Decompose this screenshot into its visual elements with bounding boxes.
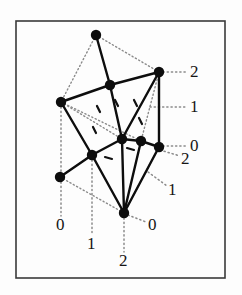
node-left-upper (56, 97, 66, 107)
figure-container: 210210012 (0, 0, 242, 295)
label-right-0: 0 (190, 137, 199, 154)
label-bottom-0: 0 (56, 216, 65, 233)
node-top (91, 30, 101, 40)
node-bottom (119, 208, 129, 218)
label-diag-2: 2 (181, 150, 190, 167)
label-right-1: 1 (190, 98, 199, 115)
label-bottom-2: 2 (119, 252, 128, 269)
node-left-lower (55, 172, 65, 182)
label-diag-0: 0 (148, 216, 157, 233)
label-right-2: 2 (190, 63, 199, 80)
label-diag-1: 1 (168, 181, 177, 198)
node-center-right (136, 136, 146, 146)
node-upper-right (154, 67, 164, 77)
node-upper-mid (105, 80, 115, 90)
node-right-lower (154, 142, 164, 152)
node-mid-left (87, 150, 97, 160)
node-center (117, 134, 127, 144)
label-bottom-1: 1 (87, 235, 96, 252)
